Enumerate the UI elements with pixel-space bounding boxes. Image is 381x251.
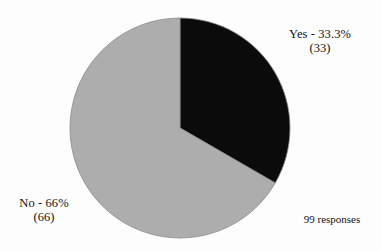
pie-label-no-count: (66) (2, 210, 86, 224)
pie-label-no-percent: No - 66% (2, 196, 86, 210)
pie-chart-figure: Yes - 33.3% (33) No - 66% (66) 99 respon… (0, 0, 381, 251)
pie-label-yes-percent: Yes - 33.3% (264, 27, 376, 41)
pie-label-yes-count: (33) (264, 41, 376, 55)
total-responses-note: 99 responses (286, 213, 378, 225)
pie-label-no: No - 66% (66) (2, 196, 86, 224)
pie-label-yes: Yes - 33.3% (33) (264, 27, 376, 55)
